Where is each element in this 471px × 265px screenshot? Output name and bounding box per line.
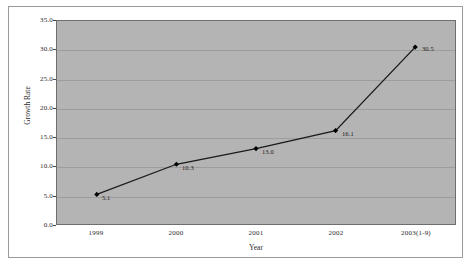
data-point-label: 13.0 [262,148,274,155]
x-axis-tick-labels: 19992000200120022003(1-9) [56,229,456,241]
growth-rate-line-chart: 0.05.010.015.020.025.030.035.0 Growth Ra… [0,0,471,265]
x-axis-tick-label: 2001 [249,229,264,237]
series-polyline [97,47,415,194]
y-axis-title: Growth Rate [23,76,32,136]
chart-frame: 0.05.010.015.020.025.030.035.0 Growth Ra… [8,6,463,258]
plot-area: 5.110.313.016.130.5 [56,20,456,225]
y-axis-tick-label: 10.0 [40,162,53,170]
y-axis-tick-label: 15.0 [40,133,53,141]
y-axis-tick-label: 35.0 [40,16,53,24]
x-axis-tick-label: 2000 [169,229,184,237]
y-axis-tick-label: 20.0 [40,104,53,112]
y-axis-tick-label: 25.0 [40,75,53,83]
y-axis-tick-label: 5.0 [44,192,53,200]
data-point-label: 10.3 [182,164,194,171]
data-point-marker [174,162,179,167]
x-axis-title: Year [56,243,456,252]
data-point-marker [253,146,258,151]
x-axis-tick-label: 1999 [89,229,104,237]
x-axis-tick-label: 2002 [329,229,344,237]
y-axis-tick-label: 30.0 [40,45,53,53]
y-axis-tick-mark [53,225,56,226]
series-line-growth-rate [57,21,455,224]
data-point-marker [94,192,99,197]
series-markers [94,45,418,197]
y-axis-tick-label: 0.0 [44,221,53,229]
x-axis-tick-label: 2003(1-9) [401,229,431,237]
data-point-label: 5.1 [102,194,110,201]
data-point-label: 30.5 [422,45,434,52]
data-point-label: 16.1 [342,130,354,137]
